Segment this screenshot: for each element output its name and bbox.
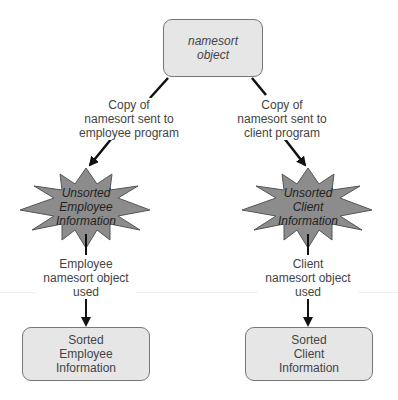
label-line: client program (222, 126, 342, 140)
burst-left-label: Unsorted Employee Information (40, 186, 132, 228)
label-line: used (36, 285, 136, 299)
node-text: object (197, 48, 229, 62)
node-text: Client (294, 347, 325, 361)
edge-label-right-used: Client namesort object used (258, 257, 358, 299)
node-text: Information (56, 361, 116, 375)
burst-line: Information (40, 214, 132, 228)
label-line: namesort object (258, 271, 358, 285)
arrow-right-upper (252, 78, 266, 95)
label-line: Copy of (62, 98, 196, 112)
burst-line: Unsorted (262, 186, 354, 200)
label-line: namesort object (36, 271, 136, 285)
node-text: Sorted (291, 333, 326, 347)
sorted-employee-node: Sorted Employee Information (22, 327, 150, 381)
burst-line: Employee (40, 200, 132, 214)
label-line: namesort sent to (62, 112, 196, 126)
arrow-right-lower (284, 138, 305, 165)
edge-label-left-used: Employee namesort object used (36, 257, 136, 299)
label-line: Employee (36, 257, 136, 271)
node-text: Information (279, 361, 339, 375)
node-text: Employee (59, 347, 112, 361)
arrow-left-upper (150, 78, 168, 98)
label-line: namesort sent to (222, 112, 342, 126)
label-line: Client (258, 257, 358, 271)
node-text: namesort (188, 34, 238, 48)
burst-line: Information (262, 214, 354, 228)
burst-line: Client (262, 200, 354, 214)
edge-label-right-copy: Copy of namesort sent to client program (222, 98, 342, 140)
burst-right-label: Unsorted Client Information (262, 186, 354, 228)
arrow-left-lower (90, 138, 112, 165)
namesort-object-node: namesort object (163, 19, 263, 77)
sorted-client-node: Sorted Client Information (245, 327, 373, 381)
edge-label-left-copy: Copy of namesort sent to employee progra… (62, 98, 196, 140)
burst-line: Unsorted (40, 186, 132, 200)
node-text: Sorted (68, 333, 103, 347)
label-line: used (258, 285, 358, 299)
label-line: Copy of (222, 98, 342, 112)
label-line: employee program (62, 126, 196, 140)
